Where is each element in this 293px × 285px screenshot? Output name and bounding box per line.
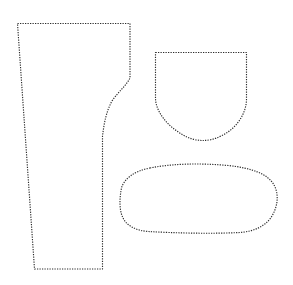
pattern-canvas: [0, 0, 293, 285]
pattern-svg: [0, 0, 293, 285]
pattern-piece-oval-panel[interactable]: [120, 164, 277, 233]
